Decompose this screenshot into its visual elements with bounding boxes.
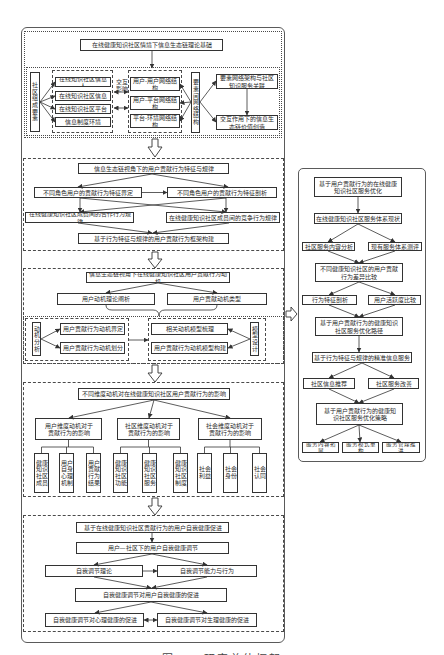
figure-caption: 图1-1 研究总体框架: [0, 650, 444, 655]
right-arrow-icon: [286, 307, 297, 321]
down-arrow-icon: [148, 139, 162, 157]
research-framework-diagram: 在线健康知识社区情境下信息生态链理论基础 社区组成要素 在线知识社区信息人 在线…: [0, 0, 444, 655]
down-arrow-icon: [148, 365, 162, 382]
connector-lines: [0, 0, 444, 655]
down-arrow-icon: [148, 252, 162, 268]
down-arrow-icon: [148, 498, 162, 515]
